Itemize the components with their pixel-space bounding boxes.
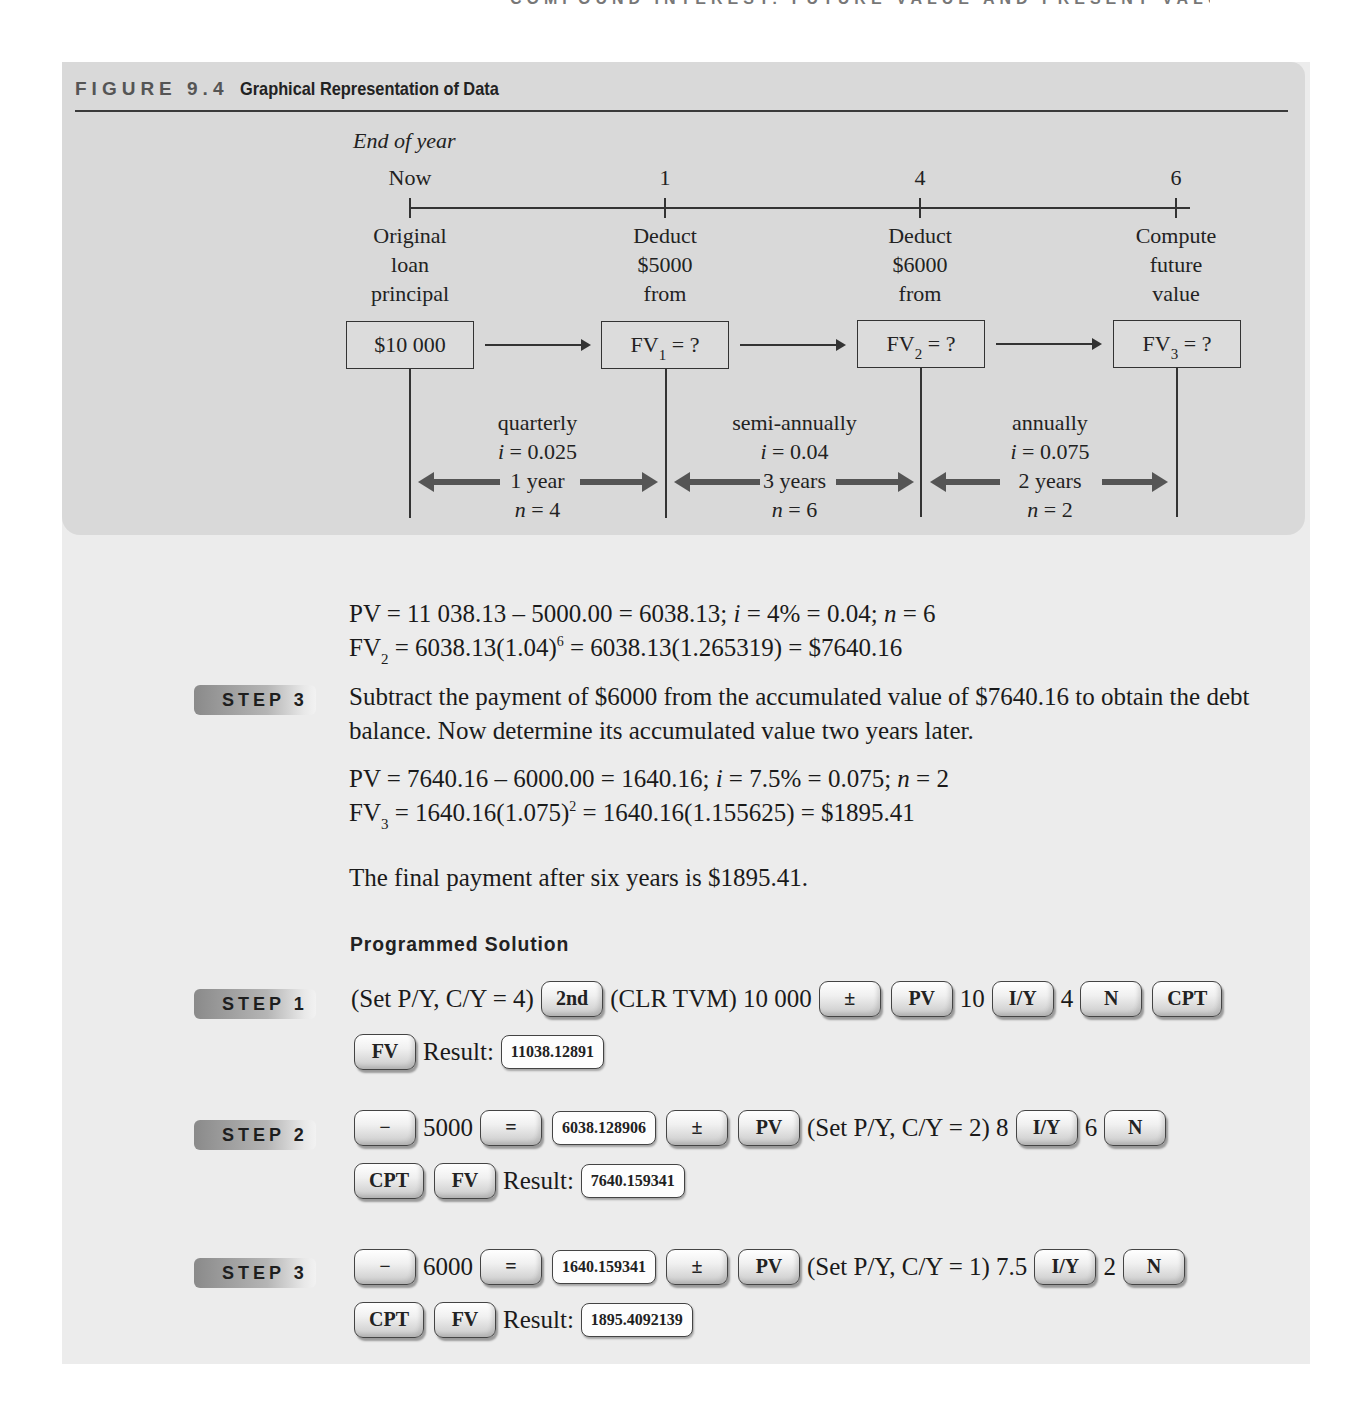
tick-4 xyxy=(919,198,921,218)
figure-title: Graphical Representation of Data xyxy=(240,78,499,100)
tick-label-now: Now xyxy=(360,163,460,192)
double-arrow-right-icon xyxy=(1102,479,1154,485)
tick-now xyxy=(409,198,411,218)
axis-label: End of year xyxy=(353,126,456,155)
key-cpt[interactable]: CPT xyxy=(354,1163,424,1199)
key-2nd[interactable]: 2nd xyxy=(541,981,603,1017)
key-n[interactable]: N xyxy=(1123,1249,1185,1285)
key-pv[interactable]: PV xyxy=(738,1249,800,1285)
key-iy[interactable]: I/Y xyxy=(1016,1110,1078,1146)
step3-fv-equation: FV3 = 1640.16(1.075)2 = 1640.16(1.155625… xyxy=(349,799,915,833)
desc-year-6: Compute future value xyxy=(1106,221,1246,308)
double-arrow-right-icon xyxy=(580,479,644,485)
key-fv[interactable]: FV xyxy=(354,1034,416,1070)
key-plus-minus[interactable]: ± xyxy=(666,1249,728,1285)
fv3-box: FV3 = ? xyxy=(1113,320,1241,368)
prog-step-2-row-2: CPT FV Result: 7640.159341 xyxy=(349,1163,690,1199)
step-3-instruction: Subtract the payment of $6000 from the a… xyxy=(349,680,1299,748)
key-n[interactable]: N xyxy=(1080,981,1142,1017)
timeline-axis xyxy=(410,207,1190,209)
key-iy[interactable]: I/Y xyxy=(1034,1249,1096,1285)
prog-step-3-badge: STEP 3 xyxy=(194,1258,316,1288)
figure-number: FIGURE 9.4 xyxy=(75,78,228,100)
key-fv[interactable]: FV xyxy=(434,1163,496,1199)
interval-2-label: semi-annually i = 0.04 3 years n = 6 xyxy=(712,408,877,524)
tick-label-4: 4 xyxy=(870,163,970,192)
double-arrow-right-icon xyxy=(836,479,900,485)
arrow-icon xyxy=(485,344,589,346)
desc-year-1: Deduct $5000 from xyxy=(595,221,735,308)
double-arrow-left-icon xyxy=(432,479,500,485)
double-arrow-left-icon xyxy=(944,479,1000,485)
arrow-icon xyxy=(740,344,844,346)
running-head: COMPOUND INTEREST: FUTURE VALUE AND PRES… xyxy=(510,0,1210,8)
figure-header: FIGURE 9.4 Graphical Representation of D… xyxy=(75,76,1288,112)
prog-step-3-row-1: − 6000 = 1640.159341 ± PV (Set P/Y, C/Y … xyxy=(349,1249,1190,1285)
divider-line xyxy=(920,367,922,517)
desc-now: Original loan principal xyxy=(340,221,480,308)
key-minus[interactable]: − xyxy=(354,1110,416,1146)
tick-label-6: 6 xyxy=(1126,163,1226,192)
tick-label-1: 1 xyxy=(615,163,715,192)
key-cpt[interactable]: CPT xyxy=(354,1302,424,1338)
divider-line xyxy=(409,368,411,518)
desc-year-4: Deduct $6000 from xyxy=(850,221,990,308)
fv1-box: FV1 = ? xyxy=(601,321,729,369)
result-display: 1895.4092139 xyxy=(581,1303,693,1337)
arrow-icon xyxy=(996,343,1100,345)
prog-step-1-row-2: FV Result: 11038.12891 xyxy=(349,1034,609,1070)
result-display: 7640.159341 xyxy=(581,1164,685,1198)
key-equals[interactable]: = xyxy=(480,1249,542,1285)
key-pv[interactable]: PV xyxy=(891,981,953,1017)
tick-6 xyxy=(1175,198,1177,218)
fv2-box: FV2 = ? xyxy=(857,320,985,368)
prog-step-1-row-1: (Set P/Y, C/Y = 4) 2nd (CLR TVM) 10 000 … xyxy=(349,981,1227,1017)
tick-1 xyxy=(664,198,666,218)
key-equals[interactable]: = xyxy=(480,1110,542,1146)
key-minus[interactable]: − xyxy=(354,1249,416,1285)
key-cpt[interactable]: CPT xyxy=(1152,981,1222,1017)
step2-fv-equation: FV2 = 6038.13(1.04)6 = 6038.13(1.265319)… xyxy=(349,634,902,668)
key-fv[interactable]: FV xyxy=(434,1302,496,1338)
key-n[interactable]: N xyxy=(1104,1110,1166,1146)
prog-step-2-badge: STEP 2 xyxy=(194,1120,316,1150)
step2-pv-equation: PV = 11 038.13 – 5000.00 = 6038.13; i = … xyxy=(349,600,936,628)
key-plus-minus[interactable]: ± xyxy=(819,981,881,1017)
prog-step-2-row-1: − 5000 = 6038.128906 ± PV (Set P/Y, C/Y … xyxy=(349,1110,1171,1146)
intermediate-display: 1640.159341 xyxy=(552,1250,656,1284)
key-iy[interactable]: I/Y xyxy=(992,981,1054,1017)
key-pv[interactable]: PV xyxy=(738,1110,800,1146)
divider-line xyxy=(665,368,667,518)
intermediate-display: 6038.128906 xyxy=(552,1111,656,1145)
divider-line xyxy=(1176,367,1178,517)
conclusion-text: The final payment after six years is $18… xyxy=(349,864,808,892)
prog-step-1-badge: STEP 1 xyxy=(194,989,316,1019)
step3-pv-equation: PV = 7640.16 – 6000.00 = 1640.16; i = 7.… xyxy=(349,765,949,793)
step-3-badge: STEP 3 xyxy=(194,685,316,715)
interval-3-label: annually i = 0.075 2 years n = 2 xyxy=(985,408,1115,524)
programmed-solution-heading: Programmed Solution xyxy=(350,932,569,956)
interval-1-label: quarterly i = 0.025 1 year n = 4 xyxy=(465,408,610,524)
double-arrow-left-icon xyxy=(688,479,760,485)
prog-step-3-row-2: CPT FV Result: 1895.4092139 xyxy=(349,1302,698,1338)
key-plus-minus[interactable]: ± xyxy=(666,1110,728,1146)
result-display: 11038.12891 xyxy=(501,1035,604,1069)
principal-box: $10 000 xyxy=(346,321,474,369)
